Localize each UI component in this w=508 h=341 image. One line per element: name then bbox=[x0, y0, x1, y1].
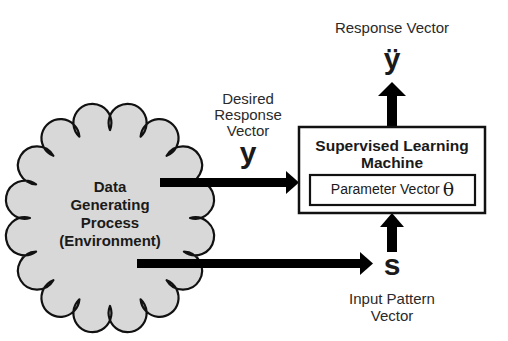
diagram-canvas: Response Vector ÿ Desired Response Vecto… bbox=[0, 0, 508, 341]
environment-label-line-2: Generating bbox=[40, 196, 180, 214]
input-to-machine-arrow bbox=[380, 213, 404, 252]
input-pattern-label-line-1: Input Pattern bbox=[332, 291, 452, 307]
environment-label-line-1: Data bbox=[40, 178, 180, 196]
parameter-vector-label: Parameter Vector bbox=[331, 181, 440, 197]
response-output-arrow bbox=[378, 82, 406, 128]
response-vector-symbol: ÿ bbox=[372, 44, 412, 74]
desired-response-symbol: y bbox=[228, 138, 268, 168]
parameter-vector-label-row: Parameter Vectorθ bbox=[310, 181, 475, 197]
machine-title-line-2: Machine bbox=[299, 153, 485, 172]
desired-label-line-2: Response bbox=[198, 107, 298, 123]
environment-label-line-3: Process bbox=[40, 214, 180, 232]
input-pattern-label-line-2: Vector bbox=[332, 308, 452, 324]
desired-label-line-1: Desired bbox=[198, 91, 298, 107]
response-vector-label: Response Vector bbox=[317, 20, 467, 36]
theta-symbol: θ bbox=[443, 178, 454, 200]
input-pattern-symbol: s bbox=[372, 250, 412, 280]
environment-label-line-4: (Environment) bbox=[40, 232, 180, 250]
